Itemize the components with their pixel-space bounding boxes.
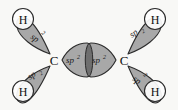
hydrogen-atom-bottom-left: H [13,81,34,102]
sp2-label-center-left-superscript: 2 [77,54,80,60]
hydrogen-label-top-right: H [151,13,160,27]
hydrogen-label-bottom-left: H [19,85,28,99]
hydrogen-atom-top-right: H [145,9,166,30]
hydrogen-atom-bottom-right: H [145,81,166,102]
sp2-label-center-right-superscript: 2 [103,54,106,60]
diagram-canvas: H sp 2 H sp 2 C sp 2 sp 2 [0,0,178,110]
hydrogen-label-bottom-right: H [151,85,160,99]
carbon-label-right: C [120,53,129,68]
hydrogen-atom-top-left: H [13,9,34,30]
sp2-label-center-left-base: sp [66,55,75,65]
hydrogen-label-top-left: H [19,13,28,27]
carbon-label-left: C [50,53,59,68]
sp2-label-center-right-base: sp [92,55,101,65]
sp2-label-top-left-superscript: 2 [40,29,46,36]
sp2-hybridization-diagram: H sp 2 H sp 2 C sp 2 sp 2 [0,0,178,110]
